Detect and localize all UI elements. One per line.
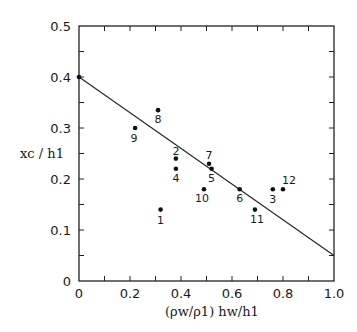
point-label: 5 [208,172,215,185]
scatter-chart: 00.20.40.60.81.000.10.20.30.40.5 1234567… [0,0,357,332]
y-tick-label: 0.3 [50,121,71,136]
data-point [77,75,82,80]
point-label: 10 [195,192,209,205]
y-tick-label: 0 [63,274,71,289]
data-point [253,207,258,212]
data-point [209,167,214,172]
data-point [202,187,207,192]
x-tick-label: 0 [75,286,83,301]
x-tick-label: 0.8 [273,286,294,301]
point-label: 9 [131,132,138,145]
data-point [207,161,212,166]
point-label: 11 [250,213,264,226]
data-point [156,108,161,113]
data-point [158,207,163,212]
point-label: 7 [206,149,213,162]
y-tick-label: 0.5 [50,19,71,34]
point-label: 2 [172,145,179,158]
point-label: 3 [269,193,276,206]
data-point [271,187,276,192]
data-point [174,167,179,172]
y-tick-label: 0.2 [50,172,71,187]
x-tick-label: 0.6 [222,286,243,301]
data-points: 123456789101112 [77,75,296,227]
data-point [237,187,242,192]
x-tick-label: 0.4 [171,286,192,301]
point-label: 1 [157,214,164,227]
point-label: 4 [172,172,179,185]
fit-line [79,77,334,256]
data-point [133,126,138,131]
x-tick-label: 1.0 [324,286,345,301]
point-label: 6 [236,192,243,205]
point-label: 8 [155,113,162,126]
point-label: 12 [282,174,296,187]
y-tick-label: 0.1 [50,223,71,238]
x-tick-label: 0.2 [120,286,141,301]
x-axis-title: (ρw/ρ1) hw/h1 [165,304,259,319]
y-tick-label: 0.4 [50,70,71,85]
y-axis-title: xc / h1 [20,146,64,161]
data-point [281,187,286,192]
